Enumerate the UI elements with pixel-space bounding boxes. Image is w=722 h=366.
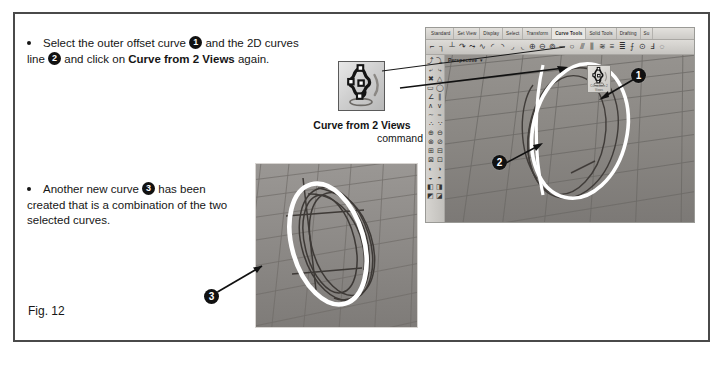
figure-caption: Fig. 12 [28, 304, 65, 318]
toolbar-glyph-icon[interactable]: ⊚ [547, 40, 557, 54]
toolbar-glyph-icon[interactable]: ─ [557, 40, 567, 54]
instruction-text-part: and click on [61, 53, 128, 65]
command-callout-subtitle: command [283, 132, 441, 145]
command-name-inline: Curve from 2 Views [128, 53, 235, 65]
tab-solid-tools[interactable]: Solid Tools [586, 28, 616, 39]
sidebar-glyph-icon[interactable]: ∧ [426, 101, 435, 110]
sidebar-glyph-icon[interactable]: ⊖ [435, 128, 444, 137]
sidebar-glyph-icon[interactable]: ◪ [435, 191, 444, 200]
tab-standard[interactable]: Standard [428, 28, 454, 39]
sidebar-glyph-icon[interactable]: ◨ [435, 182, 444, 191]
bullet-icon [27, 41, 31, 45]
rhino-perspective-viewport[interactable]: Perspective▾ Curve from 2 Views [445, 55, 694, 222]
toolbar-glyph-icon[interactable]: ○ [567, 40, 577, 54]
sidebar-glyph-icon[interactable]: ⊠ [426, 155, 435, 164]
instruction-step-select: Select the outer offset curve 1 and the … [27, 36, 317, 67]
chevron-down-icon[interactable]: ▾ [480, 57, 483, 63]
marker-2-callout: 2 [492, 155, 507, 170]
curve-from-2-views-glyph [339, 62, 384, 110]
rhino-window-body: ⤴⤵⤶⤷✖△▭◯∠∥∧∨∼≈∴∵⊕⊖⊗⊘⊞⊟⊠⊡◐◑◒◓◧◨◩◪ [426, 55, 694, 222]
sidebar-glyph-icon[interactable]: ◓ [435, 173, 444, 182]
toolbar-glyph-icon[interactable]: ⊖ [537, 40, 547, 54]
sidebar-glyph-icon[interactable]: ⊘ [435, 137, 444, 146]
rhino-left-toolbar[interactable]: ⤴⤵⤶⤷✖△▭◯∠∥∧∨∼≈∴∵⊕⊖⊗⊘⊞⊟⊠⊡◐◑◒◓◧◨◩◪ [426, 55, 445, 222]
toolbar-glyph-icon[interactable]: ⫼ [587, 40, 597, 54]
viewport-canvas [445, 55, 694, 222]
sidebar-glyph-icon[interactable]: △ [435, 74, 444, 83]
sidebar-glyph-icon[interactable]: ∥ [435, 92, 444, 101]
toolbar-highlighted-icon[interactable]: Curve from 2 Views [587, 65, 611, 93]
sidebar-glyph-icon[interactable]: ⊗ [426, 137, 435, 146]
toolbar-glyph-icon[interactable]: ◝ [497, 40, 507, 54]
toolbar-glyph-icon[interactable]: ◞ [507, 40, 517, 54]
toolbar-glyph-icon[interactable]: ↷ [457, 40, 467, 54]
rhino-toolbar-tabs[interactable]: Standard Set View Display Select Transfo… [426, 28, 694, 40]
toolbar-glyph-icon[interactable]: ≣ [617, 40, 627, 54]
sidebar-glyph-icon[interactable]: ⊟ [435, 146, 444, 155]
sidebar-glyph-icon[interactable]: ▭ [426, 83, 435, 92]
tab-select[interactable]: Select [503, 28, 523, 39]
tab-curve-tools[interactable]: Curve Tools [552, 28, 586, 39]
rhino-application-window[interactable]: Standard Set View Display Select Transfo… [425, 27, 695, 223]
result-viewport-screenshot [255, 163, 418, 328]
command-callout-caption: Curve from 2 Views command [283, 119, 441, 145]
sidebar-glyph-icon[interactable]: ⤷ [435, 65, 444, 74]
sidebar-glyph-icon[interactable]: ∨ [435, 101, 444, 110]
command-callout-title: Curve from 2 Views [313, 119, 410, 131]
tab-set-view[interactable]: Set View [454, 28, 480, 39]
instruction-text-part: Another new curve [43, 183, 142, 195]
bullet-icon [27, 187, 31, 191]
instruction-step-result: Another new curve 3 has been created tha… [27, 182, 242, 229]
curve-from-2-views-icon[interactable] [338, 61, 385, 111]
rhino-tool-buttons-row[interactable]: ⌐┐┴↷⤳∿◜◝◞◟⊕⊖⊚─○⫻⫼≋≡≣⨍⊙Ⅎ◌ [426, 40, 694, 55]
result-viewport-canvas [256, 164, 418, 328]
sidebar-glyph-icon[interactable]: ≈ [435, 110, 444, 119]
toolbar-glyph-icon[interactable]: ≡ [607, 40, 617, 54]
viewport-name: Perspective [448, 57, 477, 63]
instruction-text-part: again. [235, 53, 270, 65]
toolbar-glyph-icon[interactable]: ⤳ [467, 40, 477, 54]
sidebar-glyph-icon[interactable]: ⤴ [426, 56, 435, 65]
toolbar-glyph-icon[interactable]: Ⅎ [647, 40, 657, 54]
toolbar-glyph-icon[interactable]: ⌐ [427, 40, 437, 54]
sidebar-glyph-icon[interactable]: ⤵ [435, 56, 444, 65]
marker-3-callout: 3 [204, 289, 219, 304]
toolbar-glyph-icon[interactable]: ≋ [597, 40, 607, 54]
sidebar-glyph-icon[interactable]: ⤶ [426, 65, 435, 74]
toolbar-glyph-icon[interactable]: ⫻ [577, 40, 587, 54]
sidebar-glyph-icon[interactable]: ⊞ [426, 146, 435, 155]
sidebar-glyph-icon[interactable]: ◩ [426, 191, 435, 200]
sidebar-glyph-icon[interactable]: ⊕ [426, 128, 435, 137]
sidebar-glyph-icon[interactable]: ◧ [426, 182, 435, 191]
viewport-title-label[interactable]: Perspective▾ [448, 57, 483, 63]
marker-1-callout: 1 [631, 68, 646, 83]
toolbar-glyph-icon[interactable]: ∿ [477, 40, 487, 54]
toolbar-glyph-icon[interactable]: ◟ [517, 40, 527, 54]
tab-surface-tools[interactable]: Su [641, 28, 654, 39]
marker-3: 3 [142, 182, 155, 195]
tab-drafting[interactable]: Drafting [617, 28, 641, 39]
instruction-text-part: Select the outer offset curve [43, 37, 189, 49]
toolbar-glyph-icon[interactable]: ⨍ [627, 40, 637, 54]
sidebar-glyph-icon[interactable]: ◯ [435, 83, 444, 92]
sidebar-glyph-icon[interactable]: ✖ [426, 74, 435, 83]
toolbar-icon-tooltip: Curve from 2 Views [588, 84, 610, 92]
tab-transform[interactable]: Transform [523, 28, 552, 39]
toolbar-glyph-icon[interactable]: ┴ [447, 40, 457, 54]
marker-1: 1 [189, 36, 202, 49]
sidebar-glyph-icon[interactable]: ⊡ [435, 155, 444, 164]
sidebar-glyph-icon[interactable]: ∠ [426, 92, 435, 101]
toolbar-glyph-icon[interactable]: ◜ [487, 40, 497, 54]
sidebar-glyph-icon[interactable]: ◐ [426, 164, 435, 173]
toolbar-glyph-icon[interactable]: ⊙ [637, 40, 647, 54]
tab-display[interactable]: Display [480, 28, 503, 39]
sidebar-glyph-icon[interactable]: ◑ [435, 164, 444, 173]
sidebar-glyph-icon[interactable]: ∴ [426, 119, 435, 128]
toolbar-glyph-icon[interactable]: ◌ [657, 40, 667, 54]
marker-2: 2 [48, 52, 61, 65]
toolbar-glyph-icon[interactable]: ┐ [437, 40, 447, 54]
sidebar-glyph-icon[interactable]: ∼ [426, 110, 435, 119]
sidebar-glyph-icon[interactable]: ∵ [435, 119, 444, 128]
toolbar-glyph-icon[interactable]: ⊕ [527, 40, 537, 54]
sidebar-glyph-icon[interactable]: ◒ [426, 173, 435, 182]
